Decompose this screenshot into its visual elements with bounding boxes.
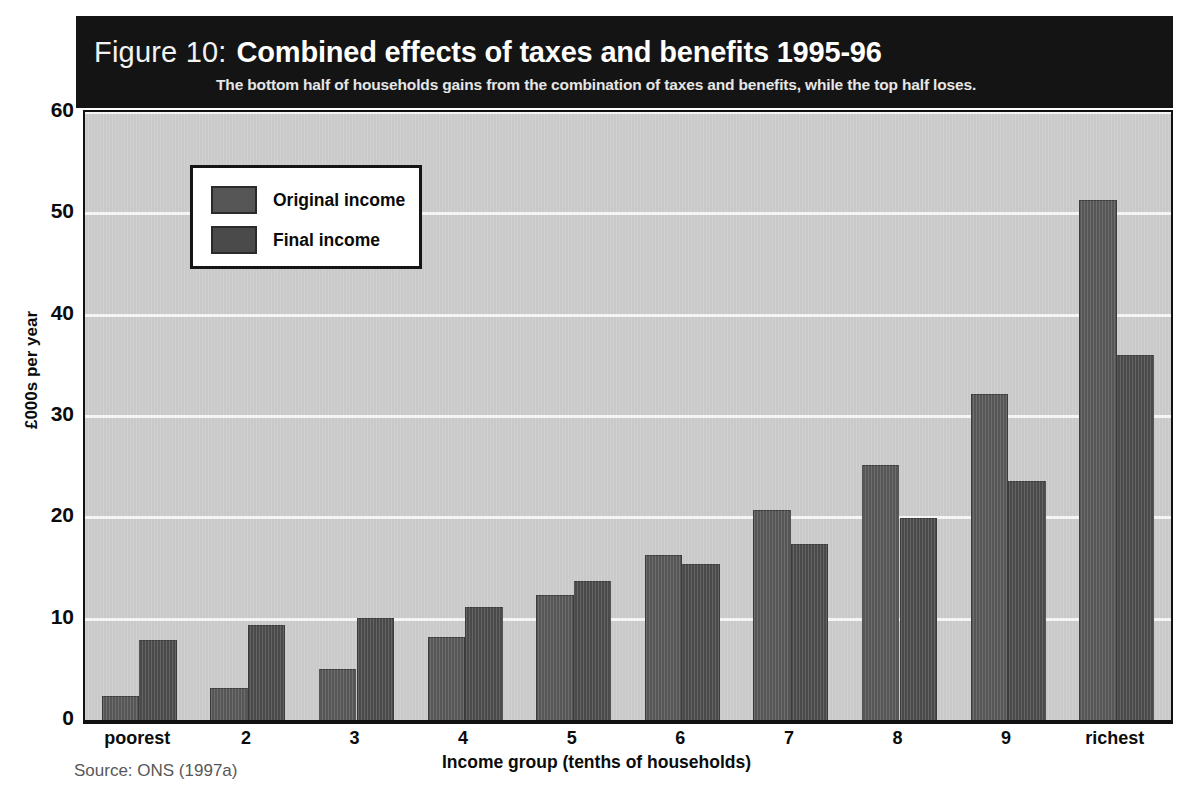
x-tick-label-poorest: poorest — [77, 728, 197, 749]
x-tick-label-3: 3 — [295, 728, 415, 749]
legend-entry-original: Original income — [211, 182, 419, 218]
bar-9-final-income — [1008, 481, 1045, 720]
y-tick-label: 0 — [4, 707, 74, 728]
legend-entry-final: Final income — [211, 222, 419, 258]
x-tick-label-richest: richest — [1055, 728, 1175, 749]
x-tick-label-5: 5 — [512, 728, 632, 749]
y-tick-label: 60 — [4, 99, 74, 120]
figure-label: Figure 10: — [94, 36, 227, 68]
x-tick-label-7: 7 — [729, 728, 849, 749]
bar-8-final-income — [900, 518, 937, 720]
bar-5-final-income — [574, 581, 611, 720]
bar-4-final-income — [465, 607, 502, 720]
legend-label-original-income: Original income — [273, 190, 405, 211]
x-tick-label-2: 2 — [186, 728, 306, 749]
bar-2-original-income — [210, 688, 247, 720]
x-tick-label-9: 9 — [946, 728, 1066, 749]
source-note: Source: ONS (1997a) — [74, 761, 237, 781]
figure-title: Combined effects of taxes and benefits 1… — [237, 36, 882, 68]
figure-subtitle: The bottom half of households gains from… — [216, 76, 976, 94]
bar-richest-final-income — [1117, 355, 1154, 720]
legend: Original income Final income — [190, 165, 422, 269]
bar-poorest-original-income — [102, 696, 139, 720]
bar-7-original-income — [753, 510, 790, 720]
bar-7-final-income — [791, 544, 828, 720]
y-tick-label: 10 — [4, 606, 74, 627]
x-tick-label-6: 6 — [620, 728, 740, 749]
y-axis-title: £000s per year — [22, 280, 42, 460]
x-tick-label-8: 8 — [838, 728, 958, 749]
y-tick-label: 20 — [4, 504, 74, 525]
bar-3-final-income — [357, 618, 394, 720]
y-tick-label: 50 — [4, 200, 74, 221]
title-line: Figure 10:Combined effects of taxes and … — [94, 36, 882, 69]
bar-poorest-final-income — [139, 640, 176, 720]
bar-2-final-income — [248, 625, 285, 720]
plot-area: Original income Final income — [83, 110, 1173, 722]
bar-3-original-income — [319, 669, 356, 720]
x-axis-baseline — [83, 720, 1173, 724]
bar-9-original-income — [971, 394, 1008, 720]
bar-4-original-income — [428, 637, 465, 720]
legend-label-final-income: Final income — [273, 230, 380, 251]
figure-page: Figure 10:Combined effects of taxes and … — [0, 0, 1193, 788]
bar-6-original-income — [645, 555, 682, 720]
bar-6-final-income — [682, 564, 719, 720]
bar-8-original-income — [862, 465, 899, 720]
bar-5-original-income — [536, 595, 573, 720]
legend-swatch-final-income — [211, 226, 257, 254]
bar-richest-original-income — [1079, 200, 1116, 720]
legend-swatch-original-income — [211, 186, 257, 214]
x-tick-label-4: 4 — [403, 728, 523, 749]
title-banner: Figure 10:Combined effects of taxes and … — [76, 16, 1173, 108]
